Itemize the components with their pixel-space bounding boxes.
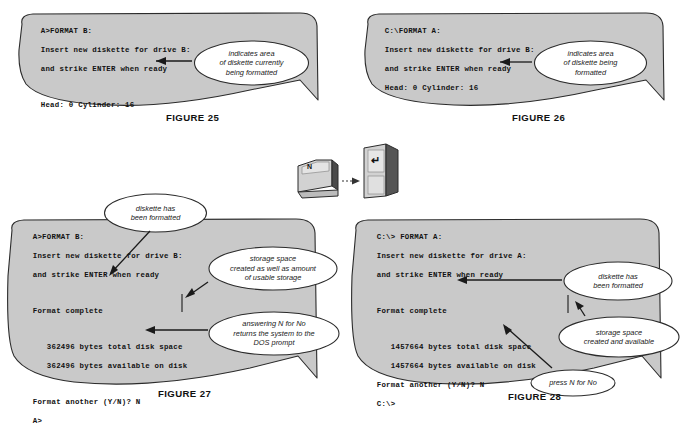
enter-key xyxy=(364,144,398,198)
terminal-line: and strike ENTER when ready xyxy=(41,65,168,73)
terminal-line: Format another (Y/N)? N xyxy=(377,381,485,389)
terminal-line: Insert new diskette for drive B: xyxy=(385,46,535,54)
terminal-line: Insert new diskette for drive B: xyxy=(41,46,191,54)
terminal-blank-line xyxy=(22,84,191,91)
terminal-line: 362496 bytes available on disk xyxy=(33,362,188,370)
terminal-line: 1457664 bytes total disk space xyxy=(377,343,532,351)
figure-26-terminal-text: C:\FORMAT A: Insert new diskette for dri… xyxy=(366,17,535,103)
callout-diskette-formatted-28: diskette has been formatted xyxy=(563,261,673,301)
terminal-line: A>FORMAT B: xyxy=(41,27,93,35)
terminal-blank-line xyxy=(14,381,187,388)
keyboard-keys-illustration: N ↵ xyxy=(288,140,408,202)
terminal-blank-line xyxy=(358,326,536,333)
terminal-line: Insert new diskette for drive B: xyxy=(33,252,183,260)
figure-27-caption: FIGURE 27 xyxy=(158,388,211,399)
terminal-blank-line xyxy=(14,326,187,333)
terminal-line: and strike ENTER when ready xyxy=(377,271,504,279)
terminal-line: 362496 bytes total disk space xyxy=(33,343,183,351)
figure-25-terminal-text: A>FORMAT B: Insert new diskette for driv… xyxy=(22,17,191,120)
terminal-line: Head: 0 Cylinder: 16 xyxy=(41,101,135,109)
callout-indicates-area-being: indicates area of diskette being formatt… xyxy=(533,40,648,86)
terminal-line: Insert new diskette for drive A: xyxy=(377,252,527,260)
figure-25-caption: FIGURE 25 xyxy=(166,112,219,123)
n-key xyxy=(298,160,338,198)
callout-answering-n-dos-prompt: answering N for No returns the system to… xyxy=(208,311,340,356)
callout-diskette-formatted-27: diskette has been formatted xyxy=(103,193,208,233)
callout-storage-created-available: storage space created and available xyxy=(558,316,680,358)
terminal-line: C:\FORMAT A: xyxy=(385,27,441,35)
callout-indicates-area-currently: indicates area of diskette currently bei… xyxy=(193,40,310,86)
terminal-line: and strike ENTER when ready xyxy=(385,65,512,73)
terminal-line: Head: 0 Cylinder: 16 xyxy=(385,84,479,92)
callout-storage-space-usable: storage space created as well as amount … xyxy=(208,246,338,291)
figure-26-caption: FIGURE 26 xyxy=(512,112,565,123)
terminal-line: Format another (Y/N)? N xyxy=(33,398,141,406)
terminal-line: A> xyxy=(33,417,42,425)
figure-28-terminal-text: C:\> FORMAT A: Insert new diskette for d… xyxy=(358,223,536,419)
enter-key-label: ↵ xyxy=(371,154,380,167)
terminal-blank-line xyxy=(14,290,187,297)
n-key-label: N xyxy=(307,163,312,170)
terminal-line: and strike ENTER when ready xyxy=(33,271,160,279)
terminal-line: Format complete xyxy=(377,307,447,315)
terminal-blank-line xyxy=(358,290,536,297)
terminal-line: C:\> xyxy=(377,400,396,408)
figure-28-caption: FIGURE 28 xyxy=(508,391,561,402)
terminal-line: C:\> FORMAT A: xyxy=(377,233,443,241)
terminal-line: Format complete xyxy=(33,307,103,315)
terminal-line: A>FORMAT B: xyxy=(33,233,85,241)
terminal-line: 1457664 bytes available on disk xyxy=(377,362,536,370)
